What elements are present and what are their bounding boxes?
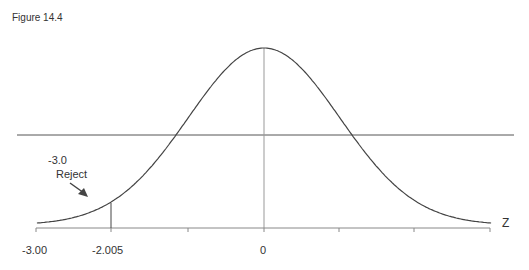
axis-label-z: Z [502, 216, 509, 230]
annotation-reject: Reject [56, 168, 87, 180]
normal-curve-chart [0, 0, 529, 270]
tick-label-neg3: -3.00 [22, 244, 47, 256]
x-ticks [36, 228, 490, 232]
tick-label-crit: -2.005 [92, 244, 123, 256]
annotation-value: -3.0 [48, 154, 67, 166]
tick-label-zero: 0 [260, 244, 266, 256]
